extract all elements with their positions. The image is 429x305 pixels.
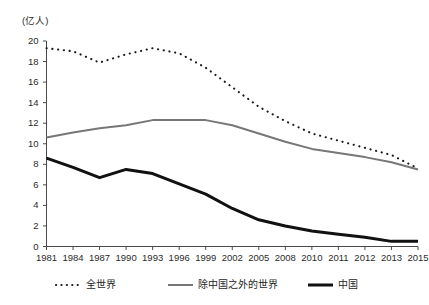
y-tick-label: 12 xyxy=(28,117,39,128)
x-tick-label: 2010 xyxy=(301,252,322,263)
x-tick-label: 2015 xyxy=(407,252,428,263)
x-tick-label: 2008 xyxy=(275,252,296,263)
y-axis-unit-text: (亿人) xyxy=(22,15,48,26)
x-tick-label: 1990 xyxy=(116,252,137,263)
series-line-solid-black xyxy=(47,158,419,241)
y-tick-label: 0 xyxy=(33,241,38,252)
y-tick-label: 18 xyxy=(28,56,39,67)
series-group xyxy=(47,48,419,241)
x-tick-label: 1999 xyxy=(195,252,216,263)
y-tick-label: 6 xyxy=(33,179,38,190)
x-tick-label: 2011 xyxy=(328,252,348,263)
y-axis-ticks: 02468101214161820 xyxy=(28,35,47,252)
y-tick-label: 16 xyxy=(28,76,39,87)
y-tick-label: 4 xyxy=(33,199,38,210)
x-tick-label: 2002 xyxy=(222,252,243,263)
y-tick-label: 20 xyxy=(28,35,39,46)
series-line-dotted xyxy=(47,48,419,168)
legend-label: 全世界 xyxy=(86,278,116,290)
x-tick-label: 1981 xyxy=(36,252,57,263)
y-tick-label: 8 xyxy=(33,158,38,169)
x-tick-label: 2005 xyxy=(248,252,269,263)
line-chart: (亿人) 02468101214161820 19811984198719901… xyxy=(0,0,429,305)
legend-item[interactable]: 全世界 xyxy=(56,278,116,290)
legend-item[interactable]: 中国 xyxy=(308,278,358,290)
y-axis-unit-label: (亿人) xyxy=(22,15,48,26)
series-line-solid-gray xyxy=(47,120,419,169)
x-tick-label: 1993 xyxy=(142,252,163,263)
legend-item[interactable]: 除中国之外的世界 xyxy=(168,278,278,290)
x-tick-label: 2013 xyxy=(381,252,402,263)
legend-label: 中国 xyxy=(338,278,358,290)
x-tick-label: 1987 xyxy=(89,252,110,263)
y-tick-label: 2 xyxy=(33,220,38,231)
legend-label: 除中国之外的世界 xyxy=(198,278,278,290)
x-tick-label: 1996 xyxy=(169,252,190,263)
chart-container: (亿人) 02468101214161820 19811984198719901… xyxy=(0,0,429,305)
y-tick-label: 14 xyxy=(28,97,39,108)
chart-legend: 全世界除中国之外的世界中国 xyxy=(56,278,358,290)
x-axis-ticks: 1981198419871990199319961999200220052008… xyxy=(36,247,429,263)
x-tick-label: 1984 xyxy=(62,252,83,263)
y-tick-label: 10 xyxy=(28,138,39,149)
x-tick-label: 2012 xyxy=(354,252,375,263)
